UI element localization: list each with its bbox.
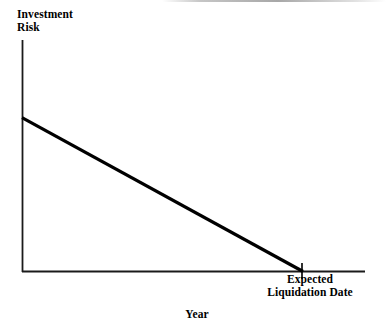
x-axis-title: Year — [0, 308, 386, 321]
x-axis-title-text: Year — [185, 308, 208, 321]
y-axis-title-line-1: Investment — [17, 8, 73, 21]
chart-screenshot: Investment Risk Expected Liquidation Dat… — [0, 0, 386, 336]
risk-decline-line — [22, 118, 303, 272]
annotation-line-2: Liquidation Date — [267, 286, 353, 299]
y-axis-title-line-2: Risk — [17, 21, 73, 34]
annotation-line-1: Expected — [267, 273, 353, 286]
expected-liquidation-date-label: Expected Liquidation Date — [0, 273, 386, 299]
y-axis-title: Investment Risk — [17, 8, 73, 34]
